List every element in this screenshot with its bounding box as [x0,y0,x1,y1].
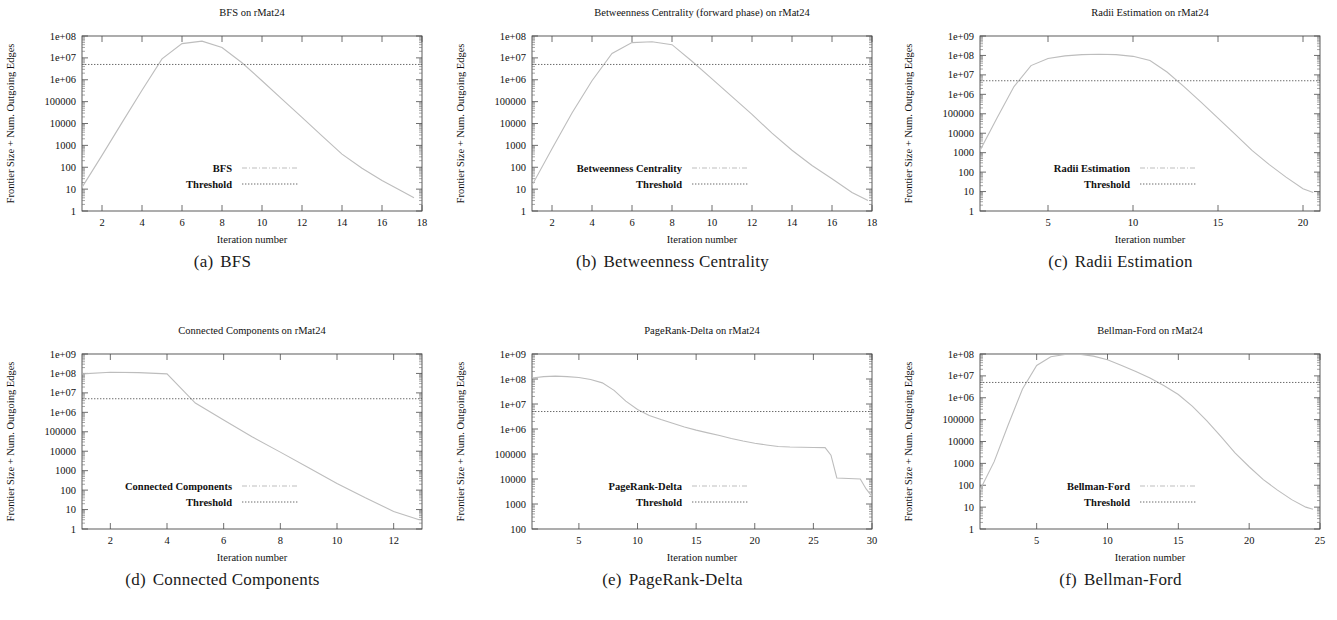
y-tick-label: 10 [964,186,975,197]
y-tick-label: 1e+09 [500,349,526,360]
plot-frame [532,36,872,211]
y-tick-label: 10000 [948,436,974,447]
plot-title: Betweenness Centrality (forward phase) o… [594,7,810,19]
y-tick-label: 100000 [495,96,527,107]
chart-panel-b: Betweenness Centrality (forward phase) o… [450,0,895,310]
y-tick-label: 1 [71,524,76,535]
y-tick-label: 1e+08 [50,368,76,379]
x-axis-label: Iteration number [667,552,738,563]
x-tick-label: 18 [417,217,428,228]
y-tick-label: 100 [510,524,526,535]
x-tick-label: 25 [808,535,819,546]
legend-label-threshold: Threshold [636,179,682,190]
x-tick-label: 10 [257,217,268,228]
y-tick-label: 10 [66,184,77,195]
x-tick-label: 6 [179,217,184,228]
x-tick-label: 2 [108,535,113,546]
x-tick-label: 5 [1034,535,1039,546]
x-tick-label: 30 [867,535,878,546]
x-tick-label: 10 [632,535,643,546]
legend-label-threshold: Threshold [186,497,232,508]
y-tick-label: 1e+06 [50,74,76,85]
plot-area-e: PageRank-Delta on rMat24Frontier Size + … [450,318,895,568]
y-tick-label: 1e+09 [948,31,974,42]
y-tick-label: 100000 [45,426,77,437]
y-tick-label: 1 [969,524,974,535]
y-axis-label: Frontier Size + Num. Outgoing Edges [903,44,914,204]
chart-panel-c: Radii Estimation on rMat24Frontier Size … [898,0,1337,310]
y-tick-label: 1e+08 [500,374,526,385]
panel-caption-letter: (f) [1059,570,1077,589]
legend-label-series: BFS [213,163,232,174]
x-tick-label: 10 [1102,535,1113,546]
x-tick-label: 10 [1128,217,1139,228]
y-tick-label: 100000 [45,96,77,107]
legend-label-threshold: Threshold [1084,497,1130,508]
legend-label-series: Radii Estimation [1054,163,1130,174]
y-tick-label: 10000 [500,474,526,485]
x-tick-label: 2 [99,217,104,228]
x-tick-label: 12 [747,217,758,228]
x-tick-label: 20 [1298,217,1309,228]
x-tick-label: 18 [867,217,878,228]
x-tick-label: 2 [549,217,554,228]
y-tick-label: 100000 [943,108,975,119]
x-tick-label: 10 [332,535,343,546]
plot-frame [82,354,422,529]
plot-frame [82,36,422,211]
plot-area-a: BFS on rMat24Frontier Size + Num. Outgoi… [0,0,445,250]
plot-frame [532,354,872,529]
y-tick-label: 1e+07 [948,370,974,381]
y-tick-label: 1e+08 [948,50,974,61]
panel-caption-text: BFS [220,252,251,271]
legend-label-threshold: Threshold [1084,179,1130,190]
y-tick-label: 10000 [500,118,526,129]
y-tick-label: 100000 [943,414,975,425]
plot-area-f: Bellman-Ford on rMat24Frontier Size + Nu… [898,318,1337,568]
y-tick-label: 100000 [495,449,527,460]
panel-caption-letter: (d) [125,570,145,589]
plot-area-d: Connected Components on rMat24Frontier S… [0,318,445,568]
panel-caption-f: (f)Bellman-Ford [898,570,1337,590]
x-tick-label: 12 [388,535,399,546]
y-tick-label: 1000 [505,140,526,151]
y-axis-label: Frontier Size + Num. Outgoing Edges [5,44,16,204]
x-tick-label: 16 [827,217,838,228]
y-tick-label: 10 [516,184,527,195]
y-tick-label: 10000 [50,118,76,129]
x-tick-label: 15 [1213,217,1224,228]
y-tick-label: 1e+06 [948,89,974,100]
y-tick-label: 1000 [505,499,526,510]
series-line-f [980,354,1313,509]
panel-caption-text: Betweenness Centrality [604,252,769,271]
series-line-e [532,376,872,496]
y-tick-label: 1e+06 [50,407,76,418]
y-tick-label: 1e+06 [948,392,974,403]
x-axis-label: Iteration number [667,234,738,245]
panel-caption-text: PageRank-Delta [629,570,743,589]
plot-title: Connected Components on rMat24 [178,325,326,336]
x-axis-label: Iteration number [217,234,288,245]
y-tick-label: 1e+06 [500,424,526,435]
x-tick-label: 10 [707,217,718,228]
x-tick-label: 4 [139,217,145,228]
y-tick-label: 1e+07 [50,387,76,398]
y-tick-label: 1 [71,206,76,217]
plot-area-b: Betweenness Centrality (forward phase) o… [450,0,895,250]
y-axis-label: Frontier Size + Num. Outgoing Edges [455,44,466,204]
y-tick-label: 1e+08 [948,349,974,360]
y-tick-label: 1000 [55,465,76,476]
x-tick-label: 25 [1315,535,1326,546]
plot-title: PageRank-Delta on rMat24 [644,325,760,336]
plot-title: BFS on rMat24 [219,7,285,18]
x-tick-label: 20 [1244,535,1255,546]
y-tick-label: 10000 [50,446,76,457]
y-tick-label: 1 [969,206,974,217]
y-tick-label: 1e+07 [500,52,526,63]
panel-caption-c: (c)Radii Estimation [898,252,1337,272]
plot-title: Radii Estimation on rMat24 [1091,7,1209,18]
y-tick-label: 1 [521,206,526,217]
x-tick-label: 8 [278,535,283,546]
y-tick-label: 1000 [953,147,974,158]
y-tick-label: 1e+08 [500,31,526,42]
